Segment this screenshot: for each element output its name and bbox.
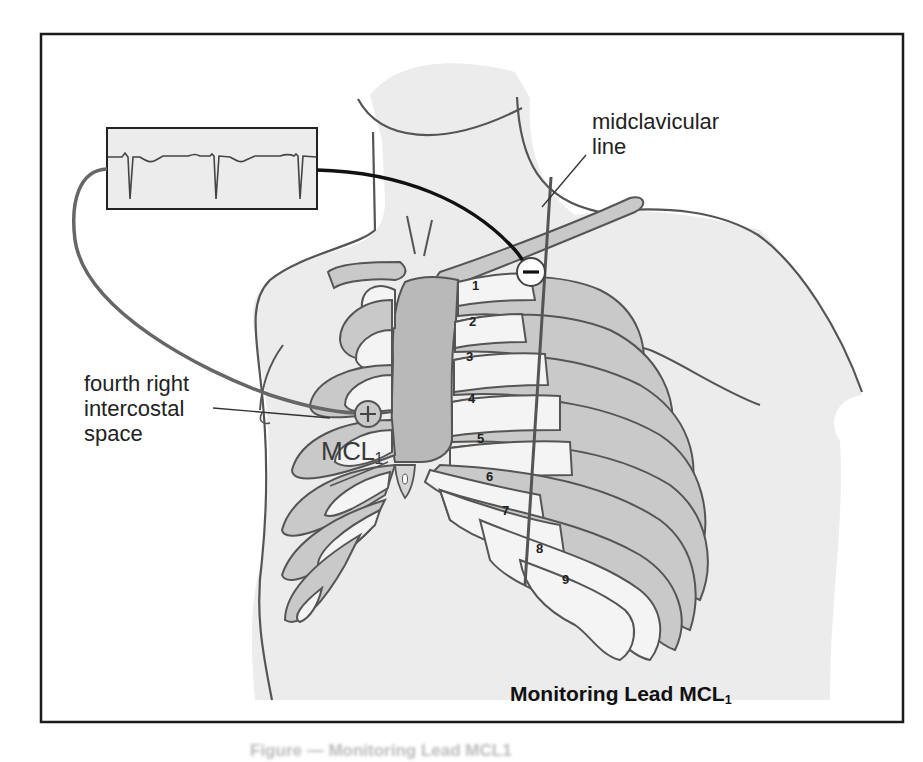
svg-text:5: 5: [477, 431, 484, 446]
label-line-3: space: [84, 421, 189, 446]
positive-electrode: [355, 401, 381, 427]
svg-text:8: 8: [536, 541, 543, 556]
midclavicular-line-label: midclavicular line: [592, 109, 719, 159]
mcl-text: MCL: [321, 436, 374, 466]
svg-text:9: 9: [562, 572, 569, 587]
label-line-2: line: [592, 134, 719, 159]
figure-title: Monitoring Lead MCL1: [510, 682, 732, 707]
sternum: [392, 277, 458, 462]
title-subscript: 1: [725, 693, 732, 707]
svg-text:6: 6: [486, 469, 493, 484]
negative-electrode: [517, 258, 545, 286]
title-text: Monitoring Lead MCL: [510, 682, 725, 705]
label-line-1: midclavicular: [592, 109, 719, 134]
fourth-intercostal-label: fourth right intercostal space: [84, 371, 189, 446]
label-line-1: fourth right: [84, 371, 189, 396]
svg-text:2: 2: [469, 314, 476, 329]
mcl1-label: MCL1: [321, 436, 383, 468]
ecg-monitor: [107, 128, 317, 209]
svg-text:4: 4: [468, 391, 476, 406]
svg-text:1: 1: [472, 278, 479, 293]
mcl-subscript: 1: [374, 450, 382, 467]
svg-text:7: 7: [502, 503, 509, 518]
figure-caption: Figure — Monitoring Lead MCL1: [250, 741, 512, 761]
svg-text:3: 3: [466, 349, 473, 364]
label-line-2: intercostal: [84, 396, 189, 421]
